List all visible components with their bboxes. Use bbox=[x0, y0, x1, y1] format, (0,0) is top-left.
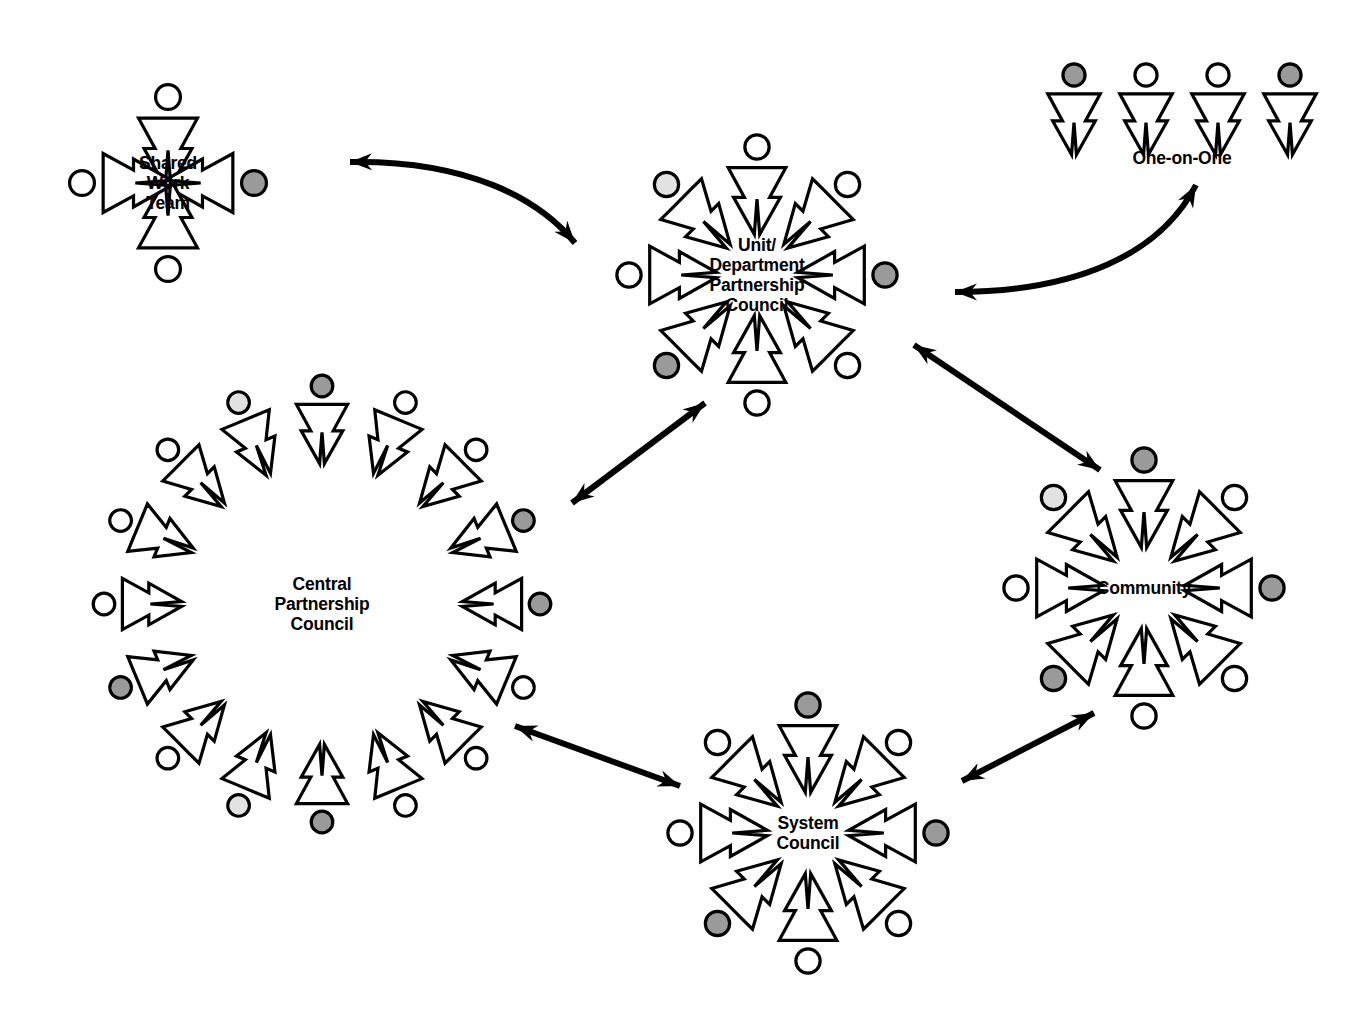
figure-head bbox=[796, 693, 820, 717]
figure-body bbox=[779, 726, 837, 793]
cluster-label-line: Council bbox=[726, 295, 789, 315]
figure-body bbox=[1264, 94, 1316, 155]
figure-head bbox=[509, 673, 537, 701]
figure-body bbox=[128, 504, 202, 574]
figure-head bbox=[700, 906, 734, 940]
cluster-system-council: SystemCouncil bbox=[668, 693, 948, 973]
figure-head bbox=[668, 821, 692, 845]
figure-body bbox=[650, 246, 717, 304]
cluster-label-line: Department bbox=[709, 255, 805, 275]
arrowhead-end-icon bbox=[1071, 705, 1098, 730]
cluster-member bbox=[849, 804, 948, 862]
cluster-label-line: System bbox=[777, 813, 838, 833]
figure-head bbox=[1217, 480, 1251, 514]
figure-head bbox=[745, 391, 769, 415]
figure-head bbox=[153, 743, 184, 774]
cluster-member bbox=[798, 246, 897, 304]
cluster-one-on-one: One-on-One bbox=[1048, 64, 1316, 168]
figure-head bbox=[796, 949, 820, 973]
cluster-member bbox=[93, 578, 181, 629]
cluster-member bbox=[668, 804, 767, 862]
cluster-member bbox=[1115, 448, 1173, 547]
cluster-central-partnership-council: CentralPartnershipCouncil bbox=[93, 375, 551, 833]
cluster-member bbox=[1048, 64, 1100, 155]
cluster-label-line: Work bbox=[147, 173, 190, 193]
figure-body bbox=[442, 504, 516, 574]
figure-body bbox=[1115, 629, 1173, 696]
figure-body bbox=[849, 804, 916, 862]
cluster-member bbox=[779, 693, 837, 792]
figure-body bbox=[1120, 94, 1172, 155]
connector-line bbox=[955, 185, 1196, 292]
cluster-label-line: One-on-One bbox=[1132, 148, 1232, 168]
cluster-label-line: Central bbox=[293, 574, 352, 594]
cluster-layer: SharedWorkTeamOne-on-OneUnit/DepartmentP… bbox=[70, 64, 1317, 973]
cluster-member bbox=[403, 685, 502, 784]
cluster-member bbox=[728, 316, 786, 415]
figure-head bbox=[649, 348, 683, 382]
cluster-label: SystemCouncil bbox=[777, 813, 840, 853]
figure-head bbox=[106, 673, 134, 701]
cluster-member bbox=[142, 424, 241, 523]
figure-head bbox=[1004, 576, 1028, 600]
figure-body bbox=[798, 246, 865, 304]
cluster-shared-work-team: SharedWorkTeam bbox=[70, 85, 267, 282]
cluster-label-line: Partnership bbox=[274, 594, 369, 614]
connector-line bbox=[572, 403, 705, 503]
figure-body bbox=[1185, 559, 1252, 617]
cluster-member bbox=[296, 744, 347, 832]
figure-head bbox=[529, 593, 551, 615]
arrowhead-end-icon bbox=[656, 770, 682, 793]
figure-head bbox=[1260, 576, 1284, 600]
cluster-label-line: Unit/ bbox=[738, 235, 776, 255]
cluster-member bbox=[352, 383, 433, 484]
arrowhead-start-icon bbox=[512, 718, 538, 741]
figure-head bbox=[649, 167, 683, 201]
cluster-member bbox=[1004, 559, 1103, 617]
figure-body bbox=[352, 724, 422, 798]
cluster-member bbox=[1264, 64, 1316, 155]
figure-body bbox=[442, 634, 516, 704]
figure-head bbox=[830, 348, 864, 382]
arrowhead-start-icon bbox=[958, 763, 985, 788]
figure-body bbox=[352, 410, 422, 484]
cluster-member bbox=[101, 634, 202, 715]
cluster-member bbox=[352, 724, 433, 825]
cluster-member bbox=[1115, 629, 1173, 728]
cluster-label-line: Shared bbox=[139, 153, 197, 173]
figure-head bbox=[745, 135, 769, 159]
figure-head bbox=[156, 257, 181, 282]
connector-swt-udpc bbox=[350, 153, 582, 248]
figure-body bbox=[128, 634, 202, 704]
cluster-community: Community bbox=[1004, 448, 1284, 728]
figure-body bbox=[1037, 559, 1104, 617]
connector-line bbox=[914, 345, 1100, 470]
figure-body bbox=[222, 724, 292, 798]
figure-body bbox=[728, 316, 786, 383]
cluster-label: One-on-One bbox=[1132, 148, 1232, 168]
figure-head bbox=[700, 725, 734, 759]
figure-head bbox=[617, 263, 641, 287]
cluster-member bbox=[211, 724, 292, 825]
figure-body bbox=[222, 410, 292, 484]
figure-head bbox=[311, 811, 333, 833]
cluster-label: CentralPartnershipCouncil bbox=[274, 574, 369, 634]
cluster-label-line: Partnership bbox=[709, 275, 804, 295]
cluster-member bbox=[617, 246, 716, 304]
figure-head bbox=[1279, 64, 1301, 86]
figure-head bbox=[224, 791, 252, 819]
figure-head bbox=[391, 388, 419, 416]
cluster-member bbox=[101, 493, 202, 574]
cluster-member bbox=[296, 375, 347, 463]
figure-head bbox=[1132, 448, 1156, 472]
connector-line bbox=[515, 726, 680, 786]
cluster-member bbox=[779, 874, 837, 973]
cluster-member bbox=[211, 383, 292, 484]
diagram-canvas: SharedWorkTeamOne-on-OneUnit/DepartmentP… bbox=[0, 0, 1355, 1009]
figure-head bbox=[93, 593, 115, 615]
figure-head bbox=[311, 375, 333, 397]
figure-body bbox=[296, 744, 347, 803]
cluster-label: Community bbox=[1097, 578, 1192, 598]
figure-body bbox=[779, 874, 837, 941]
figure-head bbox=[70, 171, 95, 196]
